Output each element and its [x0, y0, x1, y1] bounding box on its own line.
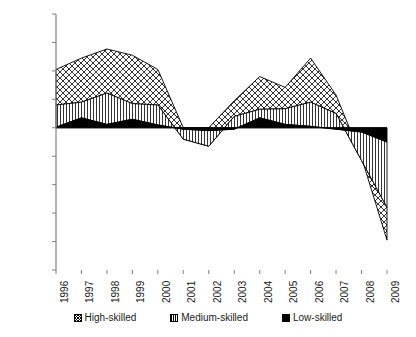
x-axis-ticks [56, 270, 387, 274]
legend-item-low-skilled: Low-skilled [282, 313, 342, 323]
series-layer [56, 49, 387, 240]
legend-label-low-skilled: Low-skilled [293, 313, 342, 323]
legend-item-medium-skilled: Medium-skilled [170, 313, 248, 323]
series-band-high-skilled [56, 49, 387, 240]
legend-item-high-skilled: High-skilled [74, 313, 137, 323]
medium-skilled-swatch-icon [170, 314, 178, 322]
stacked-area-chart: 4%3%2%1%0%-1%-2%-3%-4%-5% 19961997199819… [0, 0, 416, 337]
legend-label-medium-skilled: Medium-skilled [181, 313, 248, 323]
legend-label-high-skilled: High-skilled [85, 313, 137, 323]
high-skilled-swatch-icon [74, 314, 82, 322]
chart-canvas [0, 0, 416, 337]
low-skilled-swatch-icon [282, 314, 290, 322]
chart-legend: High-skilled Medium-skilled Low-skilled [0, 308, 416, 328]
